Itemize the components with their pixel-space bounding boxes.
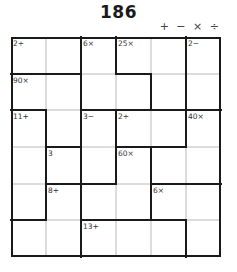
grid-cell[interactable] (116, 184, 151, 221)
grid-cell[interactable] (81, 147, 116, 184)
cage-border (150, 183, 187, 185)
cage-border (115, 146, 117, 185)
grid-cell[interactable] (151, 220, 186, 257)
cage-border (10, 109, 47, 111)
cage-border (45, 146, 82, 148)
cage-clue: 40× (188, 113, 204, 121)
cage-clue: 6× (153, 187, 164, 195)
cage-border (185, 109, 222, 111)
operators-legend: + − × ÷ (160, 20, 221, 33)
cage-border (115, 109, 117, 148)
cage-border (10, 219, 47, 221)
cage-border (80, 36, 82, 75)
cage-clue: 11+ (13, 113, 29, 121)
cage-border (10, 73, 47, 75)
cage-border (45, 146, 47, 185)
cage-border (80, 183, 82, 222)
cage-border (45, 109, 47, 148)
grid-cell[interactable] (186, 74, 221, 111)
cage-border (80, 146, 82, 185)
cage-clue: 60× (118, 150, 134, 158)
kenken-grid: 2÷6×25×2−90×11+3−2÷40×360×8+6×13+ (11, 37, 221, 257)
cage-border (185, 109, 187, 148)
grid-cell[interactable] (151, 37, 186, 74)
grid-cell[interactable] (151, 110, 186, 147)
cage-border (185, 219, 187, 258)
cage-clue: 2− (188, 40, 199, 48)
cage-border (150, 109, 187, 111)
cage-border (185, 183, 222, 185)
cage-border (45, 183, 47, 222)
cage-border (115, 73, 152, 75)
cage-border (80, 183, 117, 185)
grid-cell[interactable] (151, 147, 186, 184)
cage-clue: 3 (48, 150, 53, 158)
grid-cell[interactable] (81, 184, 116, 221)
cage-border (115, 146, 152, 148)
grid-cell[interactable] (186, 184, 221, 221)
grid-cell[interactable] (46, 37, 81, 74)
cage-border (80, 219, 117, 221)
cage-clue: 8+ (48, 187, 59, 195)
grid-cell[interactable] (116, 220, 151, 257)
cage-clue: 3− (83, 113, 94, 121)
cage-border (150, 146, 187, 148)
grid-cell[interactable] (116, 74, 151, 111)
grid-cell[interactable] (11, 147, 46, 184)
cage-border (115, 36, 117, 75)
cage-border (150, 183, 152, 222)
grid-cell[interactable] (81, 74, 116, 111)
cage-border (150, 146, 152, 185)
cage-border (80, 219, 82, 258)
cage-border (45, 183, 82, 185)
cage-border (80, 73, 82, 112)
grid-cell[interactable] (46, 220, 81, 257)
cage-border (115, 219, 152, 221)
cage-clue: 2÷ (13, 40, 24, 48)
cage-clue: 90× (13, 77, 29, 85)
cage-border (115, 109, 152, 111)
cage-border (150, 73, 152, 112)
cage-border (185, 73, 187, 112)
puzzle-number: 186 (0, 2, 237, 22)
cage-clue: 6× (83, 40, 94, 48)
cage-border (80, 109, 117, 111)
grid-cell[interactable] (186, 220, 221, 257)
cage-clue: 25× (118, 40, 134, 48)
cage-clue: 2÷ (118, 113, 129, 121)
cage-border (150, 219, 187, 221)
grid-cell[interactable] (151, 74, 186, 111)
cage-clue: 13+ (83, 223, 99, 231)
cage-border (45, 73, 82, 75)
grid-cell[interactable] (11, 184, 46, 221)
grid-cell[interactable] (46, 110, 81, 147)
grid-cell[interactable] (11, 220, 46, 257)
cage-border (80, 109, 82, 148)
grid-cell[interactable] (46, 74, 81, 111)
cage-border (185, 36, 187, 75)
grid-cell[interactable] (186, 147, 221, 184)
